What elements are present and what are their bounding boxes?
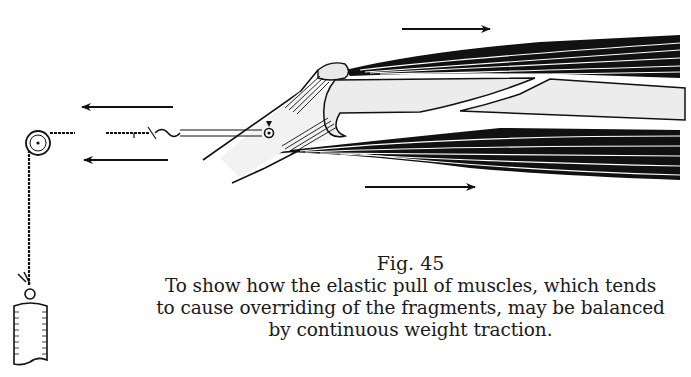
weight (14, 272, 47, 365)
caption-line-2: to cause overriding of the fragments, ma… (130, 297, 691, 319)
knee-region (220, 90, 340, 178)
caption-line-1: To show how the elastic pull of muscles,… (130, 275, 691, 297)
figure-caption: Fig. 45 To show how the elastic pull of … (130, 252, 691, 341)
figure-label: Fig. 45 (130, 252, 691, 274)
caption-line-3: by continuous weight traction. (130, 319, 691, 341)
pulley (26, 131, 50, 155)
fractured-bone (324, 78, 685, 137)
lower-muscle-group (282, 118, 680, 180)
